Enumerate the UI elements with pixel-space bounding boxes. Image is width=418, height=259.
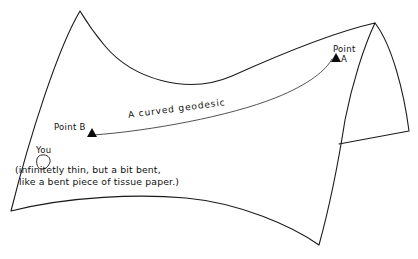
point-a-label-line1: Point (333, 44, 356, 54)
flap-outline-path (339, 23, 409, 144)
surface-caption: (infinitetly thin, but a bit bent,like a… (15, 164, 179, 187)
point-b-label: Point B (54, 122, 86, 132)
you-label: You (36, 145, 52, 155)
caption-line-1: (infinitetly thin, but a bit bent, (15, 164, 161, 175)
caption-line-2: like a bent piece of tissue paper.) (15, 176, 179, 188)
geodesic-figure: Point B Point A A curved geodesic You (i… (0, 0, 418, 259)
point-b-triangle-marker (87, 128, 97, 137)
geodesic-curve (93, 59, 332, 135)
point-a-triangle-marker (331, 53, 341, 62)
point-a-label-line2: A (341, 54, 347, 64)
